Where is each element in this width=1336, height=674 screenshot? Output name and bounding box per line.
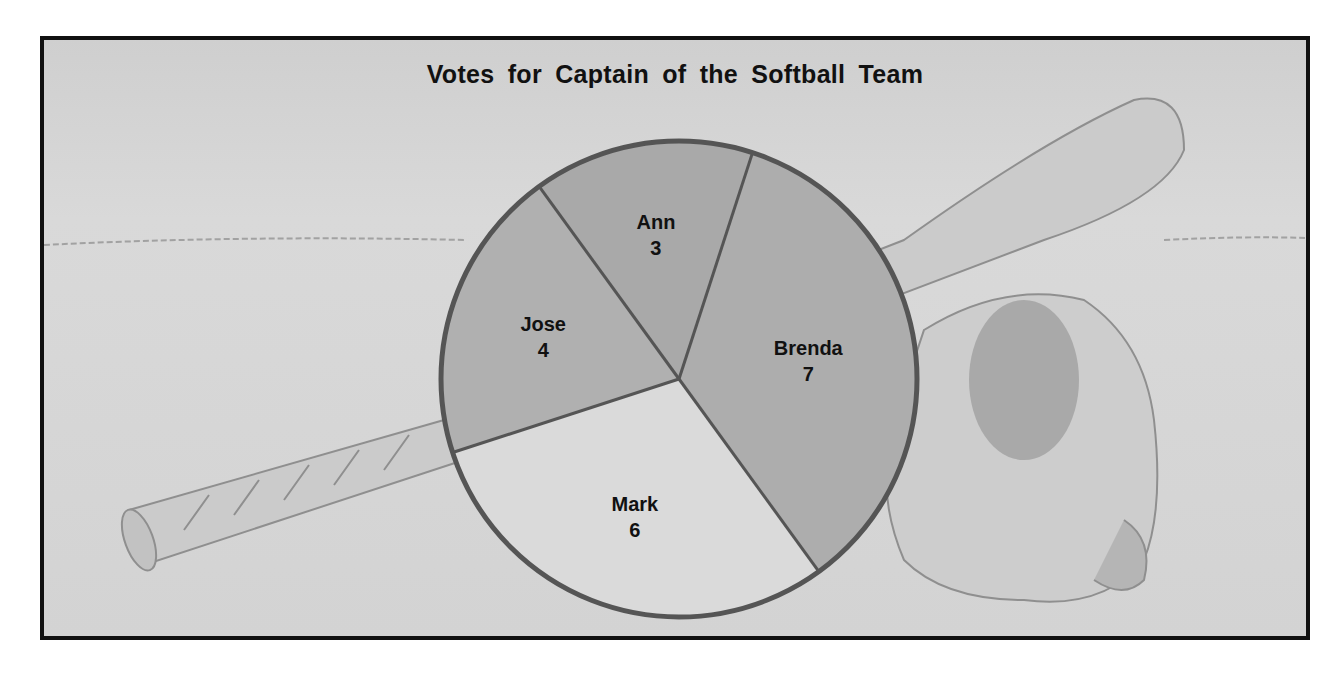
- slice-value-brenda: 7: [803, 363, 814, 385]
- slice-label-jose: Jose: [520, 313, 566, 335]
- slice-value-mark: 6: [629, 519, 640, 541]
- slice-value-ann: 3: [650, 237, 661, 259]
- slice-label-brenda: Brenda: [774, 337, 844, 359]
- pie-chart: Ann3Brenda7Mark6Jose4: [44, 40, 1306, 636]
- chart-title: Votes for Captain of the Softball Team: [44, 60, 1306, 89]
- slice-value-jose: 4: [538, 339, 550, 361]
- slice-label-ann: Ann: [636, 211, 675, 233]
- slice-label-mark: Mark: [612, 493, 660, 515]
- chart-frame: Ann3Brenda7Mark6Jose4 Votes for Captain …: [40, 36, 1310, 640]
